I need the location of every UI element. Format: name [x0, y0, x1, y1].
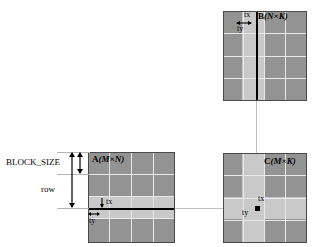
matrix-a-label: A(M×N)	[92, 155, 124, 164]
matrix-c	[223, 153, 307, 243]
matrix-c-highlight-row	[223, 197, 307, 219]
gridline	[223, 220, 307, 221]
matrix-c-thread-element-marker	[255, 206, 260, 211]
matrix-c-dims: (M×K)	[271, 156, 296, 166]
gridline	[223, 198, 307, 199]
row-arrow-icon	[68, 152, 76, 209]
matrix-b-tx-label: tx	[244, 11, 250, 19]
gridline	[88, 218, 175, 219]
matrix-b-dims: (N×K)	[264, 11, 288, 21]
connector-a-to-c	[175, 208, 223, 209]
block-size-arrow-icon	[76, 152, 84, 175]
gridline	[223, 56, 307, 57]
gridline	[223, 33, 307, 34]
matrix-c-label: C(M×K)	[264, 157, 296, 166]
connector-b-to-c	[256, 101, 257, 153]
matrix-a-ty-label: ty	[89, 217, 95, 225]
matrix-a-tx-arrow-icon	[99, 198, 106, 209]
matrix-b-thread-column-marker	[256, 11, 258, 101]
row-label: row	[41, 185, 55, 194]
diagram-canvas: B(N×K) tx ty A(M×N) tx	[0, 0, 316, 247]
matrix-c-tx-label: tx	[258, 195, 264, 203]
gridline	[88, 196, 175, 197]
matrix-b-label: B(N×K)	[258, 12, 288, 21]
gridline	[88, 174, 175, 175]
block-size-label: BLOCK_SIZE	[6, 158, 60, 167]
matrix-a-dims: (M×N)	[99, 154, 125, 164]
matrix-c-ty-label: ty	[242, 209, 248, 217]
matrix-b-ty-label: ty	[237, 25, 243, 33]
matrix-a-tx-label: tx	[106, 198, 112, 206]
gridline	[223, 78, 307, 79]
gridline	[153, 152, 154, 243]
gridline	[223, 175, 307, 176]
gridline	[131, 152, 132, 243]
